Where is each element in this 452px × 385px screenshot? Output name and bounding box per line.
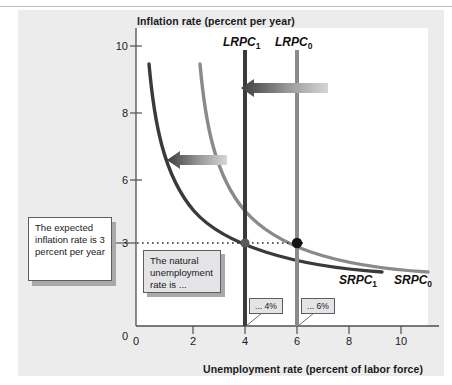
phillips-curve-figure: Inflation rate (percent per year) Unempl…: [0, 0, 452, 385]
natural-rate-6-callout: ... 6%: [301, 298, 335, 314]
y-axis-title: Inflation rate (percent per year): [137, 15, 295, 27]
y-tick-8: 8: [106, 107, 128, 119]
leader-line-6pct: [298, 313, 314, 326]
lrpc-shift-arrow: [241, 79, 328, 97]
x-tick-10: 10: [390, 335, 412, 347]
leader-line-4pct: [246, 313, 262, 326]
lrpc0-label: LRPC0: [275, 35, 312, 51]
x-tick-6: 6: [286, 335, 308, 347]
expected-inflation-callout: The expected inflation rate is 3 percent…: [28, 217, 112, 281]
lrpc1-label-sub: 1: [256, 41, 261, 51]
lrpc0-label-base: LRPC: [275, 35, 308, 49]
equilibrium-point-new: [240, 238, 249, 247]
srpc1-curve: [149, 64, 382, 272]
x-tick-8: 8: [338, 335, 360, 347]
equilibrium-point-original: [292, 238, 302, 248]
srpc1-label: SRPC1: [339, 273, 377, 289]
y-tick-6: 6: [106, 174, 128, 186]
srpc1-label-sub: 1: [372, 279, 377, 289]
natural-unemployment-callout: The natural unemployment rate is ...: [143, 250, 221, 293]
chart-graphics: [0, 0, 452, 385]
x-tick-0: 0: [125, 335, 147, 347]
x-tick-4: 4: [234, 335, 256, 347]
lrpc0-label-sub: 0: [308, 41, 313, 51]
lrpc1-label-base: LRPC: [223, 35, 256, 49]
y-tick-10: 10: [106, 40, 128, 52]
srpc1-label-base: SRPC: [339, 273, 372, 287]
lrpc1-label: LRPC1: [223, 35, 260, 51]
srpc0-label-base: SRPC: [394, 273, 427, 287]
x-tick-2: 2: [182, 335, 204, 347]
srpc0-label: SRPC0: [394, 273, 432, 289]
natural-rate-4-callout: ... 4%: [249, 298, 283, 314]
x-axis-title: Unemployment rate (percent of labor forc…: [203, 363, 423, 375]
srpc0-label-sub: 0: [427, 279, 432, 289]
